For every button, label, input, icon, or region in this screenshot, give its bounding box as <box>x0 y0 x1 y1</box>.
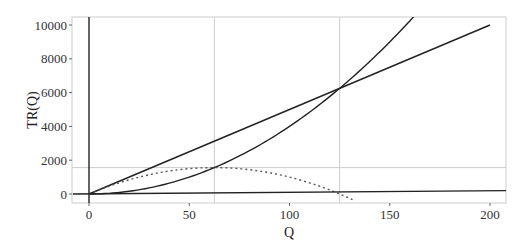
series-group <box>73 17 506 201</box>
y-axis: 0200040006000800010000 <box>35 18 73 202</box>
y-tick-label: 2000 <box>41 153 67 168</box>
series-line <box>89 25 490 194</box>
y-tick-label: 0 <box>61 187 68 202</box>
y-tick-label: 4000 <box>41 119 67 134</box>
series-line <box>73 191 506 194</box>
x-tick-label: 50 <box>183 207 196 222</box>
y-tick-label: 10000 <box>35 18 68 33</box>
x-tick-label: 100 <box>280 207 300 222</box>
chart: 0200040006000800010000 050100150200 Q TR… <box>0 0 532 246</box>
x-tick-label: 150 <box>380 207 400 222</box>
y-tick-label: 8000 <box>41 51 67 66</box>
y-tick-label: 6000 <box>41 85 67 100</box>
series-line <box>89 168 354 201</box>
y-axis-label: TR(Q) <box>25 91 41 129</box>
x-axis-label: Q <box>284 225 294 240</box>
x-tick-label: 200 <box>480 207 500 222</box>
x-tick-label: 0 <box>86 207 93 222</box>
